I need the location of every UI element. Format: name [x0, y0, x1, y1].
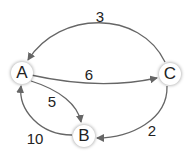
graph-diagram: 3 6 5 10 2 A B C — [0, 0, 192, 153]
edge-weight-a-b: 5 — [48, 94, 56, 109]
edge-weight-c-a: 3 — [96, 9, 104, 24]
edge-c-a — [28, 23, 165, 62]
edge-c-b — [97, 86, 167, 138]
edge-weight-c-b: 2 — [148, 123, 156, 138]
node-c: C — [159, 63, 181, 85]
edge-a-c — [31, 75, 157, 84]
edge-weight-b-a: 10 — [27, 131, 44, 146]
edge-b-a — [21, 86, 72, 135]
node-b: B — [73, 125, 95, 147]
edge-weight-a-c: 6 — [85, 67, 93, 82]
node-a: A — [11, 62, 33, 84]
